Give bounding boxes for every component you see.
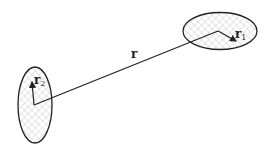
label-r1: r1 <box>235 28 246 42</box>
label-r-text: r <box>131 47 137 61</box>
label-r: r <box>131 48 137 60</box>
label-r2-subscript: 2 <box>40 79 45 88</box>
r-vector-line <box>34 31 218 105</box>
label-r1-subscript: 1 <box>241 33 246 42</box>
diagram-canvas: r r1 r2 <box>0 0 272 155</box>
label-r2: r2 <box>34 74 45 88</box>
